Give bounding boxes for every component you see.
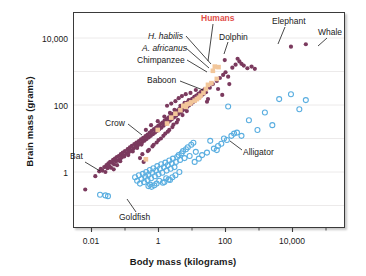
annotation-goldfish: Goldfish <box>119 213 150 222</box>
x-tick-label-10000: 10,000 <box>272 236 312 246</box>
annotation-baboon: Baboon <box>147 76 176 85</box>
y-tick-label-100: 100 <box>14 101 68 111</box>
annotation-bat: Bat <box>70 152 83 161</box>
annotation-crow: Crow <box>105 119 125 128</box>
x-tick-label-100: 100 <box>205 236 245 246</box>
series-fish-reptiles-amphibians <box>98 92 309 199</box>
x-axis-ticks <box>92 228 327 232</box>
y-tick-label-10000: 10,000 <box>14 34 68 44</box>
x-tick-label-1: 1 <box>138 236 178 246</box>
annotation-dolphin: Dolphin <box>219 33 248 42</box>
annotation-humans: Humans <box>201 14 235 23</box>
annotation-chimpanzee: Chimpanzee <box>137 56 185 65</box>
annotation-a-africanus: A. africanus <box>142 44 187 53</box>
series-humans <box>216 65 221 70</box>
series-mammals-and-birds <box>83 42 308 191</box>
y-tick-label-1: 1 <box>14 168 68 178</box>
x-tick-label-0.01: 0.01 <box>71 236 111 246</box>
x-axis-title: Body mass (kilograms) <box>0 256 366 267</box>
annotation-alligator: Alligator <box>243 148 274 157</box>
annotation-elephant: Elephant <box>272 17 306 26</box>
annotation-h-habilis: H. habilis <box>148 32 183 41</box>
annotation-whale: Whale <box>318 28 342 37</box>
